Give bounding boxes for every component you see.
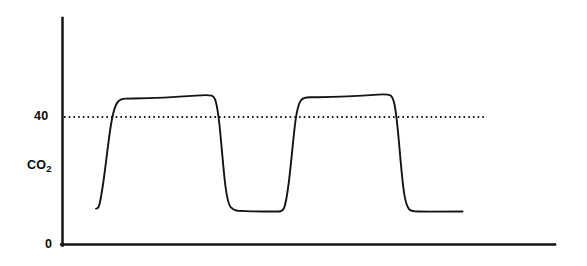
y-tick-label-40: 40 xyxy=(34,110,49,123)
y-axis-title-subscript: 2 xyxy=(46,163,51,174)
co2-waveform-trace xyxy=(96,94,463,211)
plot-area xyxy=(0,0,587,266)
y-axis-title-text: CO xyxy=(27,158,46,172)
capnogram-figure: 40 CO2 0 xyxy=(0,0,587,266)
y-axis-title: CO2 xyxy=(27,159,52,174)
origin-label-0: 0 xyxy=(45,238,52,251)
